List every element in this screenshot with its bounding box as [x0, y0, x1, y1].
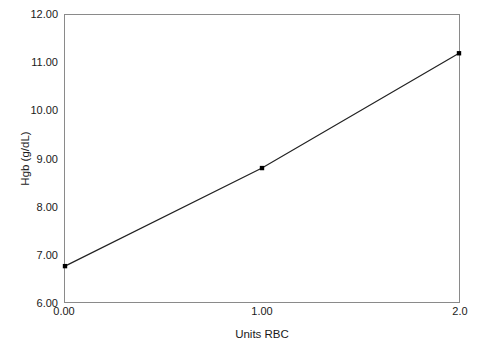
plot-svg	[65, 15, 459, 302]
y-tick-label: 8.00	[0, 201, 62, 213]
y-tick-label: 12.00	[0, 8, 62, 20]
y-tick-label: 11.00	[0, 56, 62, 68]
data-point-marker	[457, 51, 461, 55]
x-axis-title: Units RBC	[64, 328, 460, 340]
chart-figure: Hgb (g/dL) 12.0011.0010.009.008.007.006.…	[0, 0, 477, 358]
plot-area	[64, 14, 460, 303]
x-tick-label: 1.00	[251, 305, 272, 317]
data-series-layer	[63, 51, 461, 268]
x-tick-label: 2.0	[452, 305, 467, 317]
data-point-marker	[63, 264, 67, 268]
y-tick-label: 10.00	[0, 104, 62, 116]
series-line	[65, 53, 459, 266]
data-point-marker	[260, 166, 264, 170]
y-tick-label: 7.00	[0, 249, 62, 261]
x-tick-label: 0.00	[53, 305, 74, 317]
y-tick-label: 9.00	[0, 153, 62, 165]
